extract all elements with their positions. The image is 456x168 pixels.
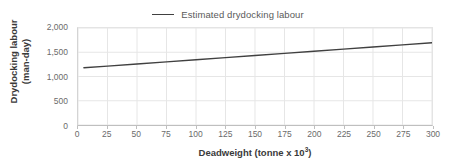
x-axis-tick-mark <box>285 126 286 129</box>
x-axis-tick-mark <box>433 126 434 129</box>
x-axis-tick-label: 175 <box>278 129 292 139</box>
x-axis-tick-label: 275 <box>396 129 410 139</box>
x-axis-tick-label: 25 <box>102 129 111 139</box>
x-axis-tick-label: 150 <box>248 129 262 139</box>
x-axis-tick-mark <box>344 126 345 129</box>
x-axis-tick-label: 100 <box>189 129 203 139</box>
x-axis-tick-mark <box>136 126 137 129</box>
x-axis-tick-mark <box>225 126 226 129</box>
x-axis-tick-mark <box>255 126 256 129</box>
x-axis-tick-label: 125 <box>218 129 232 139</box>
x-axis-tick-label: 0 <box>75 129 80 139</box>
chart-container: Estimated drydocking labour Drydocking l… <box>0 0 456 168</box>
x-axis-title-tail: ) <box>308 147 311 158</box>
x-axis-title: Deadweight (tonne x 103) <box>77 146 433 158</box>
x-axis-tick-label: 250 <box>367 129 381 139</box>
x-axis-title-main: Deadweight (tonne x 10 <box>199 147 305 158</box>
x-axis-tick-label: 300 <box>426 129 440 139</box>
x-axis-tick-mark <box>314 126 315 129</box>
x-axis-tick-labels: 0255075100125150175200225250275300 <box>0 0 456 168</box>
x-axis-tick-mark <box>107 126 108 129</box>
x-axis-tick-mark <box>166 126 167 129</box>
x-axis-tick-mark <box>196 126 197 129</box>
x-axis-tick-label: 75 <box>161 129 170 139</box>
x-axis-tick-mark <box>374 126 375 129</box>
x-axis-tick-mark <box>77 126 78 129</box>
x-axis-tick-label: 225 <box>337 129 351 139</box>
x-axis-tick-label: 50 <box>132 129 141 139</box>
x-axis-tick-label: 200 <box>307 129 321 139</box>
x-axis-tick-mark <box>403 126 404 129</box>
